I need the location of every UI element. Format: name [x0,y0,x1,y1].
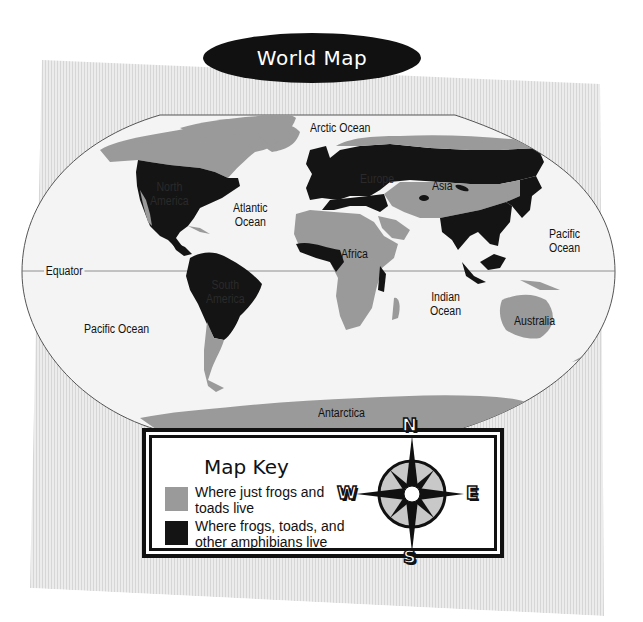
legend-text-all-amphibians: Where frogs, toads, and other amphibians… [195,518,344,550]
compass-west: W [337,482,357,503]
label-atlantic-ocean: Atlantic Ocean [233,201,268,229]
label-australia: Australia [514,314,555,328]
label-south-america: South America [206,278,245,306]
label-north-america: North America [150,180,189,208]
map-title: World Map [257,46,367,70]
swatch-all-amphibians [165,521,188,545]
swatch-frogs-toads [165,487,188,511]
label-arctic-ocean: Arctic Ocean [310,121,370,135]
map-key-title: Map Key [204,455,289,479]
compass-east: E [466,482,478,503]
compass-south: S [403,546,416,567]
label-pacific-ocean-west: Pacific Ocean [84,322,149,336]
label-asia: Asia [432,179,453,193]
legend-text-frogs-toads: Where just frogs and toads live [195,484,324,516]
title-banner: World Map [203,33,421,83]
label-africa: Africa [341,247,368,261]
label-europe: Europe [360,172,394,186]
label-indian-ocean: Indian Ocean [430,290,461,318]
label-pacific-ocean-east: Pacific Ocean [549,227,580,255]
label-equator: Equator [44,264,85,278]
world-map-figure: World Map Arctic Ocean Atlantic Ocean Pa… [0,0,643,622]
compass-north: N [402,414,417,435]
